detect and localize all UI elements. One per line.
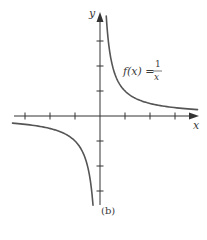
curves: [13, 16, 198, 205]
x-axis-label: x: [193, 119, 200, 132]
function-label: f(x) = 1 x: [122, 59, 162, 82]
function-label-numerator: 1: [155, 59, 161, 69]
figure-caption: (b): [101, 205, 115, 216]
function-label-lhs: f(x) =: [122, 65, 155, 78]
axes: [14, 12, 199, 205]
curve-branch-left: [13, 123, 94, 205]
y-axis-arrow-icon: [97, 12, 104, 22]
function-graph: y x f(x) = 1 x (b): [0, 0, 207, 240]
function-label-denominator: x: [154, 72, 159, 82]
y-axis-label: y: [88, 7, 96, 20]
curve-branch-right: [106, 16, 197, 110]
